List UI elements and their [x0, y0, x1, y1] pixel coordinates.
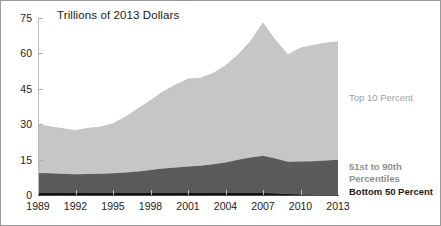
- chart-figure: Trillions of 2013 Dollars 01530456075 19…: [0, 0, 441, 226]
- x-axis-tick-label: 2007: [243, 201, 283, 212]
- x-axis-tick: [188, 190, 189, 195]
- x-axis-tick: [151, 190, 152, 195]
- y-axis-tick: [38, 89, 43, 90]
- x-axis-tick: [301, 190, 302, 195]
- x-axis-tick: [76, 190, 77, 195]
- x-axis-tick-label: 1989: [18, 201, 58, 212]
- legend-label-51st-to-90th-line1: 51st to 90th: [349, 161, 402, 173]
- y-axis-tick: [38, 124, 43, 125]
- x-axis-tick-label: 2013: [318, 201, 358, 212]
- x-axis-tick: [113, 190, 114, 195]
- legend-label-51st-to-90th-percentiles: 51st to 90th Percentiles: [349, 161, 402, 184]
- x-axis-tick-label: 1992: [56, 201, 96, 212]
- y-axis-tick: [38, 53, 43, 54]
- x-axis-tick: [226, 190, 227, 195]
- x-axis-tick-label: 2001: [168, 201, 208, 212]
- legend-label-top-10-percent: Top 10 Percent: [349, 92, 413, 104]
- legend-label-bottom-50-percent: Bottom 50 Percent: [349, 186, 433, 198]
- y-axis-tick: [38, 160, 43, 161]
- x-axis-tick-label: 1995: [93, 201, 133, 212]
- y-axis-tick: [38, 18, 43, 19]
- x-axis-tick-label: 2010: [281, 201, 321, 212]
- x-axis-tick: [263, 190, 264, 195]
- x-axis-tick-label: 2004: [206, 201, 246, 212]
- x-axis-tick-label: 1998: [131, 201, 171, 212]
- legend-label-51st-to-90th-line2: Percentiles: [349, 173, 402, 185]
